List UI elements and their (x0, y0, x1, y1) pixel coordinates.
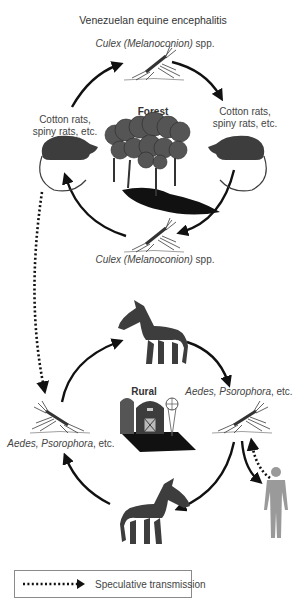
mosquito-icon (124, 218, 184, 252)
rat-icon (208, 136, 266, 191)
legend-box: Speculative transmission (14, 570, 192, 598)
mosquito-icon (212, 401, 272, 433)
legend-label: Speculative transmission (95, 579, 206, 590)
horse-icon (120, 478, 190, 544)
farm-icon (120, 398, 196, 452)
human-icon (264, 467, 288, 538)
horse-icon (118, 300, 188, 364)
dotted-arrow-icon (19, 571, 91, 597)
forest-icon (105, 112, 220, 215)
mosquito-icon (30, 401, 90, 433)
diagram-canvas (0, 0, 306, 609)
